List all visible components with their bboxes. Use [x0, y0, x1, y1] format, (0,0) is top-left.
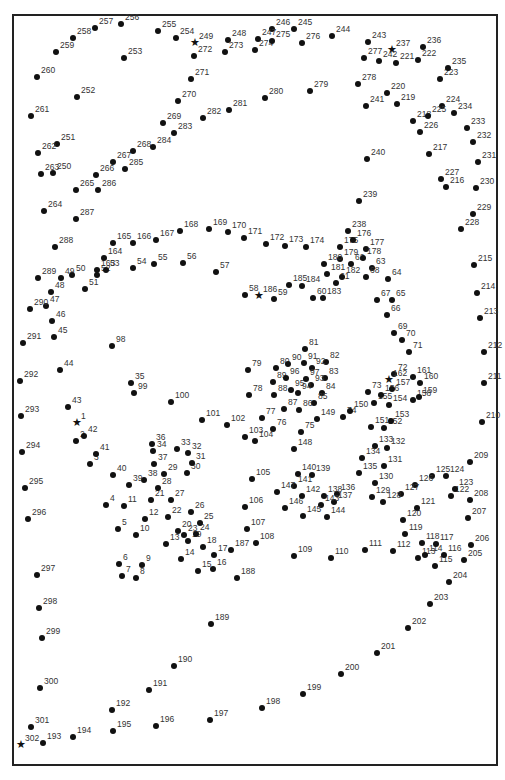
dot-number-label: 148 — [298, 438, 312, 447]
dot-number-label: 190 — [178, 655, 192, 664]
dot-number-label: 1 — [81, 412, 86, 421]
puzzle-dot — [185, 450, 191, 456]
puzzle-dot — [171, 663, 177, 669]
dot-number-label: 86 — [303, 399, 312, 408]
puzzle-dot — [151, 261, 157, 267]
puzzle-dot — [415, 555, 421, 561]
dot-number-label: 17 — [218, 544, 227, 553]
dot-number-label: 234 — [458, 102, 472, 111]
dot-number-label: 73 — [372, 381, 381, 390]
dot-number-label: 278 — [362, 73, 376, 82]
dot-number-label: 246 — [276, 18, 290, 27]
dot-number-label: 131 — [388, 455, 402, 464]
puzzle-dot — [464, 125, 470, 131]
puzzle-dot — [189, 460, 195, 466]
dot-number-label: 140 — [302, 463, 316, 472]
puzzle-dot — [151, 461, 157, 467]
puzzle-dot — [363, 103, 369, 109]
dot-number-label: 77 — [266, 407, 275, 416]
dot-number-label: 157 — [396, 378, 410, 387]
puzzle-dot — [314, 416, 320, 422]
dot-number-label: 161 — [417, 366, 431, 375]
puzzle-dot — [417, 380, 423, 386]
puzzle-dot — [73, 216, 79, 222]
puzzle-dot — [242, 292, 248, 298]
puzzle-dot — [128, 380, 134, 386]
puzzle-dot — [206, 226, 212, 232]
puzzle-dot — [130, 148, 136, 154]
dot-number-label: 87 — [288, 398, 297, 407]
puzzle-dot — [131, 390, 137, 396]
puzzle-dot — [470, 139, 476, 145]
puzzle-dot — [252, 438, 258, 444]
puzzle-dot — [465, 515, 471, 521]
dot-number-label: 141 — [298, 475, 312, 484]
dot-number-label: 279 — [314, 80, 328, 89]
dot-number-label: 135 — [363, 462, 377, 471]
dot-number-label: 127 — [405, 483, 419, 492]
puzzle-dot — [299, 40, 305, 46]
puzzle-dot — [271, 296, 277, 302]
puzzle-dot — [388, 418, 394, 424]
puzzle-dot — [110, 240, 116, 246]
puzzle-dot — [380, 499, 386, 505]
puzzle-dot — [28, 724, 34, 730]
puzzle-dot — [222, 49, 228, 55]
puzzle-dot — [461, 557, 467, 563]
puzzle-dot — [73, 187, 79, 193]
dot-number-label: 187 — [235, 539, 249, 548]
puzzle-dot — [360, 255, 366, 261]
puzzle-dot — [70, 734, 76, 740]
dot-number-label: 242 — [383, 50, 397, 59]
dot-number-label: 41 — [100, 443, 109, 452]
puzzle-dot — [345, 228, 351, 234]
puzzle-dot — [286, 282, 292, 288]
dot-number-label: 83 — [329, 367, 338, 376]
dot-number-label: 198 — [266, 697, 280, 706]
dot-number-label: 67 — [381, 289, 390, 298]
puzzle-dot — [181, 532, 187, 538]
dot-number-label: 262 — [42, 142, 56, 151]
dot-number-label: 129 — [376, 486, 390, 495]
puzzle-dot — [389, 386, 395, 392]
puzzle-dot — [385, 276, 391, 282]
puzzle-dot — [121, 503, 127, 509]
puzzle-dot — [441, 552, 447, 558]
puzzle-dot — [52, 244, 58, 250]
puzzle-dot — [81, 433, 87, 439]
puzzle-dot — [381, 463, 387, 469]
puzzle-dot — [17, 378, 23, 384]
puzzle-dot — [175, 98, 181, 104]
puzzle-dot — [452, 486, 458, 492]
dot-number-label: 64 — [392, 268, 401, 277]
puzzle-dot — [174, 446, 180, 452]
puzzle-dot — [82, 286, 88, 292]
dot-number-label: 184 — [306, 275, 320, 284]
puzzle-dot — [451, 110, 457, 116]
dot-number-label: 70 — [406, 329, 415, 338]
dot-number-label: 302 — [25, 734, 39, 743]
puzzle-dot — [384, 312, 390, 318]
dot-number-label: 170 — [232, 221, 246, 230]
dot-number-label: 88 — [278, 384, 287, 393]
dot-number-label: 166 — [137, 232, 151, 241]
puzzle-dot — [109, 343, 115, 349]
puzzle-dot — [426, 151, 432, 157]
puzzle-dot — [446, 579, 452, 585]
puzzle-dot — [175, 528, 181, 534]
dot-number-label: 31 — [196, 452, 205, 461]
puzzle-dot — [355, 81, 361, 87]
dot-number-label: 185 — [293, 274, 307, 283]
puzzle-dot — [139, 562, 145, 568]
puzzle-dot — [94, 267, 100, 273]
dot-number-label: 125 — [436, 465, 450, 474]
puzzle-dot — [419, 540, 425, 546]
dot-number-label: 290 — [34, 298, 48, 307]
dot-number-label: 5 — [122, 518, 127, 527]
puzzle-dot — [193, 531, 199, 537]
puzzle-dot — [110, 159, 116, 165]
puzzle-dot — [282, 243, 288, 249]
dot-number-label: 109 — [298, 545, 312, 554]
dot-number-label: 296 — [32, 508, 46, 517]
puzzle-dot — [324, 271, 330, 277]
